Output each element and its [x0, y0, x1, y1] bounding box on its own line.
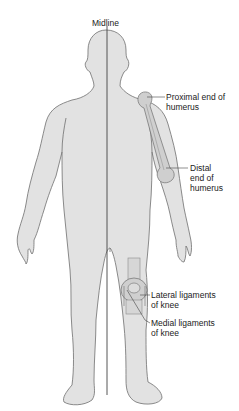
anatomy-figure: Midline Proximal end of humerus Distal e… [0, 0, 239, 411]
midline-label: Midline [92, 18, 119, 28]
lateral-ligaments-label: Lateral ligaments of knee [151, 290, 216, 310]
body-silhouette [17, 30, 191, 405]
body-outline-diagram [0, 0, 239, 411]
proximal-humerus-label: Proximal end of humerus [166, 92, 225, 112]
distal-humerus-label: Distal end of humerus [190, 163, 223, 193]
medial-ligaments-label: Medial ligaments of knee [151, 318, 215, 338]
